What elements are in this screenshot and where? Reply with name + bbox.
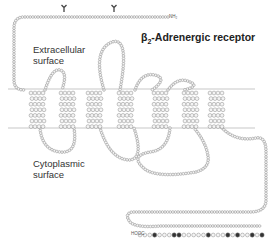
residue (247, 211, 250, 214)
residue (13, 24, 16, 27)
residue (121, 91, 125, 95)
residue (122, 57, 125, 60)
residue (231, 211, 234, 214)
residue (33, 91, 37, 95)
residue (100, 76, 103, 79)
residue (187, 233, 191, 237)
residue (133, 127, 136, 130)
residue (118, 108, 122, 112)
residue (60, 97, 64, 101)
residue (141, 16, 144, 19)
residue (138, 16, 141, 19)
extracellular-label: Extracellularsurface (33, 44, 85, 66)
residue (186, 91, 190, 95)
residue (192, 211, 195, 214)
residue (129, 125, 133, 129)
residue (221, 211, 224, 214)
residue (29, 91, 33, 95)
residue (143, 211, 146, 214)
residue (37, 91, 41, 95)
residue (152, 73, 155, 76)
residue (13, 53, 16, 56)
residue (175, 225, 178, 228)
residue (152, 225, 155, 228)
residue (214, 225, 217, 228)
residue (29, 102, 33, 106)
residue (216, 114, 220, 118)
residue (99, 108, 103, 112)
residue (68, 108, 72, 112)
residue (265, 153, 268, 156)
residue (264, 145, 267, 148)
residue (212, 102, 216, 106)
residue (148, 16, 151, 19)
residue (72, 97, 76, 101)
residue (147, 74, 150, 77)
residue (37, 114, 41, 118)
residue (193, 225, 196, 228)
residue (151, 211, 154, 214)
residue (98, 66, 101, 69)
residue (165, 108, 169, 112)
residue (182, 172, 185, 175)
residue (98, 63, 101, 66)
residue (194, 125, 198, 129)
residue (167, 225, 170, 228)
c-terminal-residues (138, 233, 264, 237)
residue (203, 211, 206, 214)
residue (55, 69, 58, 72)
residue (126, 158, 129, 161)
residue (156, 114, 160, 118)
residue (206, 154, 209, 157)
residue (67, 91, 71, 95)
residue (265, 200, 268, 203)
residue (26, 16, 29, 19)
residue (220, 114, 224, 118)
residue (168, 132, 171, 135)
residue (206, 161, 209, 164)
residue (34, 108, 38, 112)
residue (136, 224, 139, 227)
residue (120, 81, 123, 84)
residue (117, 114, 121, 118)
residue (42, 108, 46, 112)
residue (265, 150, 268, 153)
residue (90, 125, 94, 129)
residue (42, 119, 46, 123)
residue (86, 102, 90, 106)
residue (163, 233, 167, 237)
residue (34, 97, 38, 101)
residue (98, 102, 102, 106)
residue (13, 55, 16, 58)
residue (137, 145, 140, 148)
residue (122, 108, 126, 112)
residue (153, 211, 156, 214)
residue (41, 91, 45, 95)
residue (179, 211, 182, 214)
residue (152, 150, 155, 153)
residue (196, 225, 199, 228)
residue (148, 211, 151, 214)
residue (13, 61, 16, 64)
residue (122, 65, 125, 68)
residue (91, 119, 95, 123)
residue (217, 119, 221, 123)
residue (182, 91, 186, 95)
residue (171, 211, 174, 214)
residue (13, 79, 16, 82)
residue (190, 125, 194, 129)
residue (112, 40, 115, 43)
residue (135, 211, 138, 214)
residue (91, 16, 94, 19)
glycosylation-icon (112, 5, 117, 12)
residue (121, 125, 125, 129)
residue (178, 225, 181, 228)
residue (156, 125, 160, 129)
residue (190, 91, 194, 95)
residue (130, 108, 134, 112)
residue (13, 68, 16, 71)
residue (166, 211, 169, 214)
residue (197, 211, 200, 214)
residue (90, 114, 94, 118)
residue (164, 91, 168, 95)
